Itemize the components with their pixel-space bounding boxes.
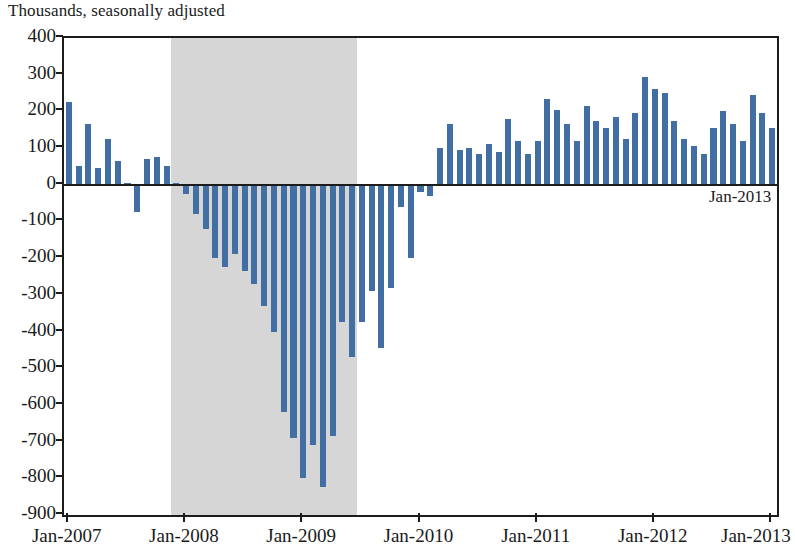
x-axis-tickmark: [535, 513, 537, 522]
y-axis-tickmark: [56, 35, 63, 37]
plot-inner: [64, 38, 777, 515]
bar: [671, 121, 677, 185]
y-axis-tickmark: [56, 365, 63, 367]
bar: [369, 185, 375, 291]
bar: [681, 139, 687, 185]
chart-figure: Thousands, seasonally adjusted 400300200…: [0, 0, 795, 552]
bar: [447, 124, 453, 185]
bar: [95, 168, 101, 185]
x-axis-tickmark: [418, 513, 420, 522]
bar: [720, 111, 726, 184]
bar: [603, 128, 609, 185]
bar: [437, 148, 443, 185]
bar: [193, 185, 199, 214]
y-axis-tick-label: -900: [0, 503, 56, 522]
bar: [740, 141, 746, 185]
bar: [662, 93, 668, 185]
x-axis-tick-label: Jan-2011: [501, 526, 570, 546]
bar: [710, 128, 716, 185]
x-axis-tick-label: Jan-2013: [721, 526, 791, 546]
y-axis-tickmark: [56, 218, 63, 220]
bar: [535, 141, 541, 185]
bar: [261, 185, 267, 306]
bar: [505, 119, 511, 185]
y-axis-tickmark: [56, 439, 63, 441]
x-axis-tick-label: Jan-2009: [266, 526, 336, 546]
x-axis-tickmark: [769, 513, 771, 522]
y-axis-tick-label: 100: [0, 136, 56, 155]
x-axis-tick-label: Jan-2007: [32, 526, 102, 546]
bar: [632, 113, 638, 185]
bar: [584, 106, 590, 185]
bar: [349, 185, 355, 357]
y-axis-tick-label: -400: [0, 320, 56, 339]
bar: [183, 185, 189, 194]
bar: [359, 185, 365, 323]
x-axis-tick-label: Jan-2008: [149, 526, 219, 546]
bar: [750, 95, 756, 185]
y-axis-tickmark: [56, 475, 63, 477]
y-axis-tickmark: [56, 292, 63, 294]
bar: [486, 144, 492, 184]
x-axis-tick-label: Jan-2010: [384, 526, 454, 546]
bar: [154, 157, 160, 185]
bar: [466, 148, 472, 185]
bar: [574, 141, 580, 185]
bar: [251, 185, 257, 284]
bar: [300, 185, 306, 479]
y-axis-tick-label: -700: [0, 430, 56, 449]
bar: [564, 124, 570, 185]
bar: [144, 159, 150, 185]
x-axis-tickmark: [66, 513, 68, 522]
x-axis-tickmark: [183, 513, 185, 522]
bar: [330, 185, 336, 436]
bar: [232, 185, 238, 255]
bar: [222, 185, 228, 268]
y-axis-tickmark: [56, 329, 63, 331]
bar: [769, 128, 775, 185]
bar: [290, 185, 296, 438]
zero-line: [64, 184, 777, 186]
bar: [496, 152, 502, 185]
bar: [339, 185, 345, 323]
bar: [525, 154, 531, 185]
last-point-annotation: Jan-2013: [709, 188, 771, 206]
y-axis-tickmark: [56, 108, 63, 110]
bar: [388, 185, 394, 288]
bar: [476, 154, 482, 185]
bar: [85, 124, 91, 185]
x-axis-tick-label: Jan-2012: [618, 526, 688, 546]
bar: [730, 124, 736, 185]
y-axis-tick-label: -600: [0, 393, 56, 412]
y-axis-tickmark: [56, 255, 63, 257]
bar: [457, 150, 463, 185]
bar: [105, 139, 111, 185]
bar: [134, 185, 140, 213]
y-axis-tickmark: [56, 182, 63, 184]
y-axis-tick-label: 400: [0, 26, 56, 45]
y-axis-tick-label: 0: [0, 173, 56, 192]
bar: [652, 89, 658, 184]
y-axis-tickmark: [56, 402, 63, 404]
bar: [115, 161, 121, 185]
bar: [398, 185, 404, 207]
y-axis-tick-label: 300: [0, 63, 56, 82]
bar: [203, 185, 209, 229]
chart-subtitle: Thousands, seasonally adjusted: [8, 1, 225, 21]
x-axis-tickmark: [652, 513, 654, 522]
bar: [623, 139, 629, 185]
bar: [164, 166, 170, 184]
y-axis-tick-label: 200: [0, 99, 56, 118]
y-axis-tick-label: -300: [0, 283, 56, 302]
bar: [554, 110, 560, 185]
bar: [691, 146, 697, 185]
bar: [281, 185, 287, 412]
bar: [212, 185, 218, 258]
y-axis-tick-label: -500: [0, 356, 56, 375]
y-axis-tick-label: -800: [0, 466, 56, 485]
y-axis-tick-label: -200: [0, 246, 56, 265]
bar: [76, 166, 82, 185]
bar: [515, 141, 521, 185]
y-axis-tick-label: -100: [0, 209, 56, 228]
bar: [378, 185, 384, 348]
